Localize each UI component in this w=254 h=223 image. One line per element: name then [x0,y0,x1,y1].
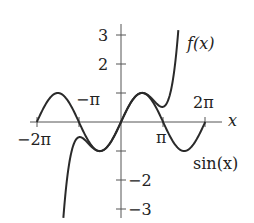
x-tick-label-2pi: 2π [193,93,214,112]
x-tick-label-pi: π [156,128,167,147]
sin-curve-label: sin(x) [193,154,238,173]
y-tick-label-neg2: −2 [128,171,152,190]
x-tick-label-neg2pi: −2π [17,130,51,149]
y-tick-label-3: 3 [98,26,108,45]
f-curve-label: f(x) [186,34,214,53]
function-plot: 3 2 −2 −3 −2π −π π 2π x f(x) sin(x) [0,0,254,223]
x-axis-label: x [228,111,237,130]
y-tick-label-neg3: −3 [128,200,152,219]
x-tick-label-negpi: −π [76,90,100,109]
y-tick-label-2: 2 [98,55,108,74]
